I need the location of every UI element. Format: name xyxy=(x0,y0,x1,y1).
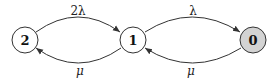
state-diagram: 2λ λ μ μ 2 1 0 xyxy=(0,0,274,81)
node-0: 0 xyxy=(240,27,266,53)
edge-0-to-1 xyxy=(145,48,241,63)
edge-label-0-to-1: μ xyxy=(187,64,195,78)
node-1-label: 1 xyxy=(128,33,137,48)
node-2: 2 xyxy=(12,27,38,53)
edge-1-to-0 xyxy=(145,17,240,32)
node-0-label: 0 xyxy=(248,33,257,48)
edge-1-to-2 xyxy=(36,48,121,63)
edge-label-2-to-1: 2λ xyxy=(70,4,86,18)
edge-2-to-1 xyxy=(36,17,120,32)
edge-label-1-to-2: μ xyxy=(76,64,84,78)
edge-label-1-to-0: λ xyxy=(189,4,197,18)
node-2-label: 2 xyxy=(20,33,29,48)
node-1: 1 xyxy=(120,27,146,53)
